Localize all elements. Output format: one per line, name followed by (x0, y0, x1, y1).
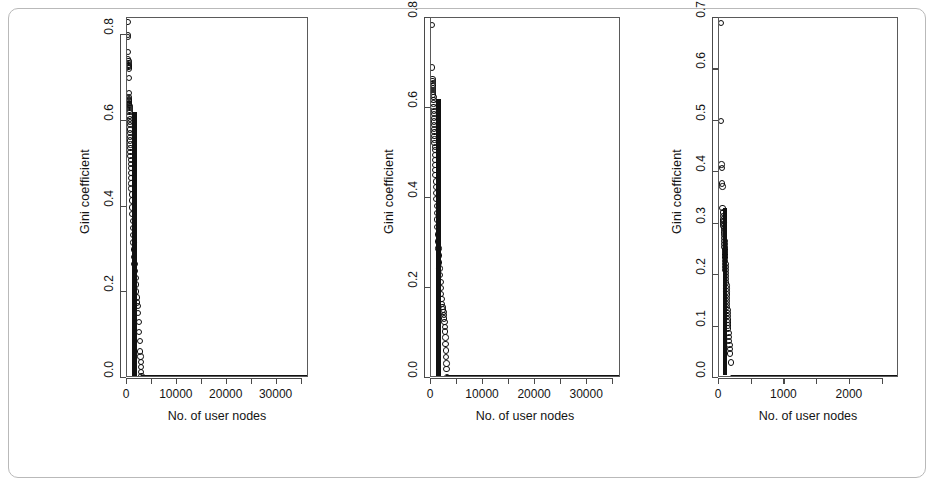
data-point (727, 350, 733, 356)
y-axis-tick-label: 0.6 (102, 104, 116, 121)
y-axis-line (712, 17, 713, 377)
x-axis-tick-label: 2000 (809, 387, 889, 401)
data-point (442, 334, 448, 340)
data-point (126, 65, 132, 71)
y-axis-tick-label: 0.4 (694, 155, 708, 172)
y-axis-tick-label: 0.5 (694, 104, 708, 121)
y-axis-tick-label: 0.0 (694, 361, 708, 378)
scatter-panel-2: 0.00.20.40.60.80100002000030000Gini coef… (322, 0, 632, 464)
data-point (443, 347, 449, 353)
x-axis-line (126, 378, 301, 379)
data-point (719, 183, 725, 189)
y-axis-tick-label: 0.0 (406, 361, 420, 378)
x-axis-line (430, 378, 612, 379)
y-axis-title: Gini coefficient (78, 149, 92, 234)
scatter-panel-3: 0.00.10.20.30.40.50.60.7010002000Gini co… (634, 0, 936, 464)
x-axis-title: No. of user nodes (430, 409, 620, 423)
data-point (430, 64, 435, 70)
data-point (126, 75, 132, 81)
y-axis-line (120, 34, 121, 377)
data-point (126, 34, 131, 40)
y-axis-tick-label: 0.2 (694, 258, 708, 275)
data-point (443, 366, 449, 372)
x-axis-tick-label: 30000 (546, 387, 626, 401)
plot-area (126, 17, 308, 377)
data-point (137, 338, 143, 344)
data-point (718, 20, 724, 26)
x-axis-title: No. of user nodes (126, 409, 308, 423)
data-point (728, 359, 734, 365)
y-axis-tick-label: 0.1 (694, 310, 708, 327)
data-point (442, 341, 448, 347)
data-point (430, 22, 435, 28)
scatter-panel-1: 0.00.20.40.60.80100002000030000Gini coef… (10, 0, 320, 464)
y-axis-tick-label: 0.2 (102, 275, 116, 292)
plot-area (430, 17, 620, 377)
y-axis-tick-label: 0.7 (694, 1, 708, 18)
data-point (126, 19, 131, 25)
y-axis-title: Gini coefficient (382, 149, 396, 234)
plot-area (718, 17, 898, 377)
x-axis-tick (612, 378, 613, 384)
x-axis-line (718, 378, 882, 379)
y-axis-tick-label: 0.6 (406, 91, 420, 108)
y-axis-tick-label: 0.6 (694, 52, 708, 69)
x-axis-tick-label: 30000 (236, 387, 316, 401)
y-axis-tick-label: 0.4 (102, 190, 116, 207)
y-axis-tick-label: 0.8 (102, 18, 116, 35)
x-axis-tick (301, 378, 302, 384)
zero-line-point-band (446, 375, 620, 377)
x-axis-tick (882, 378, 883, 384)
x-axis-title: No. of user nodes (718, 409, 898, 423)
zero-line-point-band (141, 375, 308, 377)
y-axis-tick-label: 0.4 (406, 181, 420, 198)
dense-cluster-column (436, 99, 441, 376)
zero-line-point-band (731, 375, 898, 377)
y-axis-tick-label: 0.8 (406, 1, 420, 18)
y-axis-tick-label: 0.2 (406, 271, 420, 288)
y-axis-tick-label: 0.0 (102, 361, 116, 378)
data-point (126, 49, 131, 55)
y-axis-line (424, 17, 425, 377)
y-axis-tick-label: 0.3 (694, 207, 708, 224)
data-point (719, 165, 725, 171)
dense-cluster-column (132, 112, 137, 376)
data-point (718, 118, 724, 124)
dense-cluster-column (723, 208, 727, 375)
y-axis-title: Gini coefficient (670, 149, 684, 234)
